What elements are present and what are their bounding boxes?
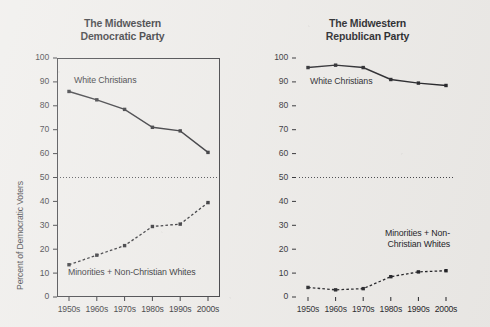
data-point-marker [306, 286, 309, 289]
data-point-marker [179, 222, 182, 225]
data-point-marker [67, 90, 70, 93]
data-point-marker [389, 275, 392, 278]
data-point-marker [389, 78, 392, 81]
y-axis-tick-label: 40 [27, 197, 49, 206]
data-point-marker [444, 269, 447, 272]
y-axis-tick-label: 20 [27, 245, 49, 254]
chart-panel-democratic: The Midwestern Democratic Party Percent … [0, 0, 245, 327]
data-point-marker [362, 287, 365, 290]
y-axis-tick-label: 20 [266, 245, 288, 254]
y-axis-tick-label: 70 [27, 125, 49, 134]
y-axis-tick-label: 90 [266, 77, 288, 86]
series-annotation-white-christians: White Christians [310, 76, 372, 87]
data-point-marker [362, 66, 365, 69]
series-annotation-minorities-line2: Christian Whites [362, 239, 450, 250]
data-point-marker [206, 151, 209, 154]
y-axis-tick-label: 60 [266, 149, 288, 158]
data-point-marker [417, 81, 420, 84]
y-axis-tick-label: 30 [27, 221, 49, 230]
data-point-marker [417, 270, 420, 273]
series-annotation-minorities-line1: Minorities + Non- [362, 228, 450, 239]
series-line-white-christians-democratic [69, 91, 208, 152]
chart-svg-democratic [0, 0, 245, 327]
y-axis-tick-label: 0 [266, 292, 288, 301]
series-annotation-white-christians: White Christians [74, 75, 136, 86]
data-point-marker [123, 244, 126, 247]
y-axis-tick-label: 30 [266, 221, 288, 230]
data-point-marker [444, 84, 447, 87]
data-point-marker [334, 63, 337, 66]
y-axis-tick-label: 70 [266, 125, 288, 134]
y-axis-tick-label: 80 [266, 101, 288, 110]
data-point-marker [179, 129, 182, 132]
chart-panel-republican: The Midwestern Republican Party Percent … [245, 0, 490, 327]
y-axis-tick-label: 40 [266, 197, 288, 206]
data-point-marker [206, 201, 209, 204]
y-axis-tick-label: 10 [266, 269, 288, 278]
data-point-marker [123, 108, 126, 111]
data-point-marker [151, 225, 154, 228]
y-axis-tick-label: 0 [27, 292, 49, 301]
x-axis-tick-label: 2000s [429, 304, 463, 314]
data-point-marker [95, 98, 98, 101]
y-axis-tick-label: 50 [266, 173, 288, 182]
data-point-marker [334, 288, 337, 291]
y-axis-tick-label: 100 [27, 53, 49, 62]
y-axis-tick-label: 10 [27, 269, 49, 278]
data-point-marker [95, 253, 98, 256]
x-axis-tick-label: 2000s [191, 304, 225, 314]
y-axis-tick-label: 90 [27, 77, 49, 86]
y-axis-tick-label: 100 [266, 53, 288, 62]
data-point-marker [67, 263, 70, 266]
series-line-minorities-non-christian-whites-republican [308, 271, 446, 290]
y-axis-tick-label: 50 [27, 173, 49, 182]
y-axis-tick-label: 60 [27, 149, 49, 158]
chart-svg-republican [245, 0, 490, 327]
series-line-minorities-non-christian-whites-democratic [69, 203, 208, 265]
data-point-marker [151, 126, 154, 129]
series-annotation-minorities: Minorities + Non-Christian Whites [68, 267, 195, 278]
data-point-marker [306, 66, 309, 69]
y-axis-tick-label: 80 [27, 101, 49, 110]
